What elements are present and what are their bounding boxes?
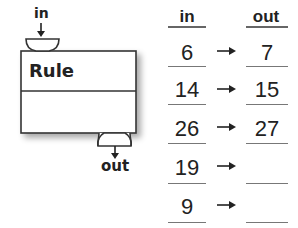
cell-underline [246,143,288,144]
table-cell-out: 7 [246,40,288,66]
column-header-in: in [168,7,206,27]
right-arrow-icon [216,198,238,212]
table-cell-in: 9 [168,194,206,220]
cell-underline [246,104,288,105]
answer-blank [246,183,288,184]
answer-blank [246,222,288,223]
cell-underline [168,183,206,184]
cell-underline [168,66,206,67]
table-cell-in: 14 [168,77,206,103]
table-cell-in: 26 [168,116,206,142]
cell-underline [168,222,206,223]
table-cell-out: 27 [246,116,288,142]
table-cell-in: 6 [168,40,206,66]
right-arrow-icon [216,159,238,173]
cell-underline [246,66,288,67]
header-underline-in [168,26,206,28]
table-cell-in: 19 [168,155,206,181]
cell-underline [168,104,206,105]
cell-underline [168,143,206,144]
column-header-out: out [246,7,286,27]
table-cell-out: 15 [246,77,288,103]
right-arrow-icon [216,82,238,96]
input-output-table: in out 6 7 14 15 26 27 19 9 [0,0,298,228]
right-arrow-icon [216,44,238,58]
right-arrow-icon [216,120,238,134]
header-underline-out [246,26,288,28]
